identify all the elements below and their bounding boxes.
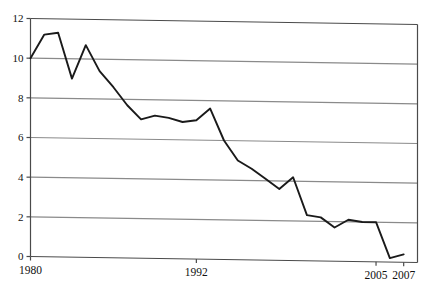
frame-top <box>31 19 418 25</box>
y-tick-label: 8 <box>18 92 24 104</box>
chart-figure: 024681012 1980199220052007 <box>0 0 427 286</box>
x-axis-labels-group: 1980199220052007 <box>19 264 415 282</box>
y-tick-label: 0 <box>18 250 24 262</box>
gridline <box>31 58 418 64</box>
y-tick-label: 4 <box>18 171 24 183</box>
x-tick-label: 2005 <box>365 269 388 281</box>
y-tick-label: 12 <box>13 12 24 24</box>
y-axis-labels-group: 024681012 <box>13 12 25 262</box>
frame-bottom-axis <box>31 257 418 263</box>
line-chart-svg: 024681012 1980199220052007 <box>0 0 427 286</box>
data-line-group <box>31 33 404 258</box>
gridline <box>31 177 418 183</box>
y-tick-label: 2 <box>18 211 24 223</box>
data-line <box>31 33 404 258</box>
x-tick-label: 1992 <box>185 266 208 278</box>
y-tick-label: 10 <box>13 52 25 64</box>
gridline <box>31 98 418 104</box>
x-tick-label: 1980 <box>19 264 42 276</box>
x-tick-label: 2007 <box>392 269 415 281</box>
y-tick-label: 6 <box>18 131 24 143</box>
